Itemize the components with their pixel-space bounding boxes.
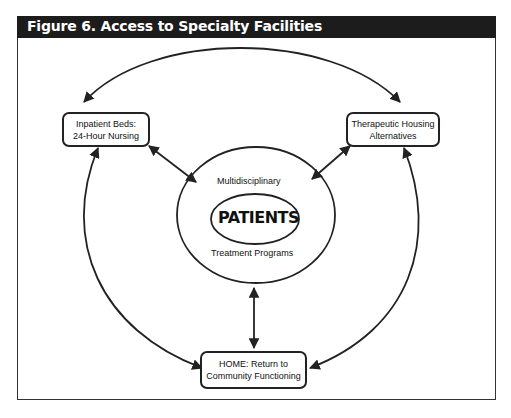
arc-housing-home: [310, 148, 419, 368]
link-inpatient-center: [149, 146, 196, 182]
node-therapeutic-housing: Therapeutic Housing Alternatives: [346, 112, 440, 147]
node-inpatient-beds: Inpatient Beds: 24-Hour Nursing: [62, 112, 150, 147]
inpatient-line2: 24-Hour Nursing: [73, 130, 139, 142]
housing-line1: Therapeutic Housing: [351, 118, 434, 130]
node-home: HOME: Return to Community Functioning: [200, 351, 307, 389]
patients-label: PATIENTS: [218, 208, 299, 227]
arc-inpatient-housing: [84, 48, 400, 102]
arc-inpatient-home: [84, 148, 202, 368]
multidisciplinary-label: Multidisciplinary: [217, 176, 281, 186]
home-line1: HOME: Return to: [219, 358, 288, 370]
housing-line2: Alternatives: [369, 130, 416, 142]
inpatient-line1: Inpatient Beds:: [76, 118, 136, 130]
link-housing-center: [312, 146, 350, 179]
home-line2: Community Functioning: [206, 370, 301, 382]
treatment-programs-label: Treatment Programs: [211, 248, 293, 258]
